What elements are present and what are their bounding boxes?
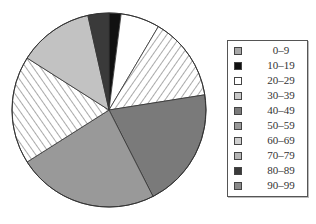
legend-swatch (234, 152, 242, 160)
legend-swatch (234, 62, 242, 70)
legend-item: 20–29 (228, 74, 307, 88)
legend-swatch (234, 122, 242, 130)
legend-swatch (234, 92, 242, 100)
legend-swatch (234, 107, 242, 115)
legend-item: 0–9 (228, 44, 307, 58)
legend-swatch (234, 167, 242, 175)
legend-label: 10–19 (258, 59, 304, 72)
legend-label: 60–69 (258, 134, 304, 147)
legend-label: 90–99 (258, 179, 304, 192)
legend-label: 50–59 (258, 119, 304, 132)
pie-chart (0, 0, 220, 224)
legend-item: 60–69 (228, 134, 307, 148)
legend-item: 70–79 (228, 149, 307, 163)
legend-label: 30–39 (258, 89, 304, 102)
legend-swatch (234, 47, 242, 55)
legend-swatch (234, 182, 242, 190)
legend-swatch (234, 77, 242, 85)
legend-item: 40–49 (228, 104, 307, 118)
legend-item: 80–89 (228, 164, 307, 178)
legend-item: 10–19 (228, 59, 307, 73)
legend-swatch (234, 137, 242, 145)
legend-item: 30–39 (228, 89, 307, 103)
legend-item: 90–99 (228, 179, 307, 193)
legend-label: 70–79 (258, 149, 304, 162)
legend-item: 50–59 (228, 119, 307, 133)
legend-label: 0–9 (258, 44, 304, 57)
legend: 0–910–1920–2930–3940–4950–5960–6970–7980… (227, 40, 308, 197)
legend-label: 80–89 (258, 164, 304, 177)
legend-label: 40–49 (258, 104, 304, 117)
legend-label: 20–29 (258, 74, 304, 87)
